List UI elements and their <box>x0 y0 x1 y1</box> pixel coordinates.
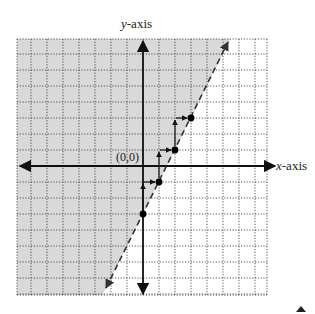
y-axis-label: y-axis <box>119 16 152 31</box>
inequality-graph: y-axis x-axis (0,0) <box>0 0 315 314</box>
corner-marker-icon <box>296 306 306 312</box>
data-point <box>188 115 195 122</box>
data-point <box>140 211 147 218</box>
data-point <box>156 179 163 186</box>
x-axis-label: x-axis <box>275 158 307 173</box>
origin-label: (0,0) <box>116 150 139 164</box>
shaded-solution-region <box>17 39 231 295</box>
data-point <box>172 147 179 154</box>
